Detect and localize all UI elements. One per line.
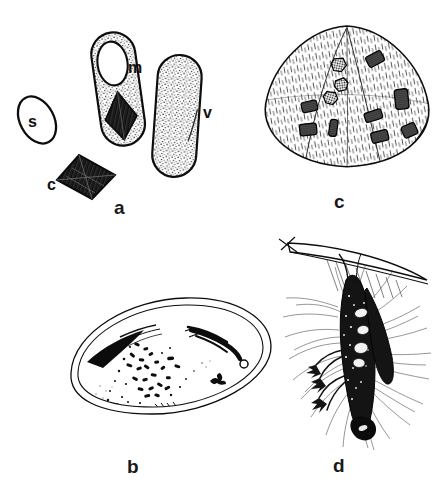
panel-label-a: a [114,198,125,217]
label-sporulating-cell-m: m [128,60,142,76]
panel-label-b: b [127,457,139,476]
panel-label-c: c [334,192,345,211]
panel-b [60,288,275,423]
label-vegetative-rod-v: v [203,105,212,121]
panel-b-drawing [60,288,275,423]
panel-c-drawing [256,8,438,186]
figure-canvas: s m c v a [0,0,446,491]
label-spore-s: s [28,114,37,130]
structure-crystal-c [57,155,115,199]
inclusion [394,88,409,109]
panel-c [256,8,438,186]
inclusion [299,123,317,136]
panel-label-d: d [333,456,345,475]
cell-body [256,21,438,174]
structure-vegetative-rod-v [151,54,203,179]
panel-d [268,232,444,457]
insect-cadaver [306,254,393,440]
label-crystal-c: c [47,177,56,193]
inclusion [328,119,338,137]
panel-a-drawing [0,0,250,225]
panel-a: s m c v [0,0,250,225]
panel-d-drawing [268,232,444,457]
structure-sporulating-cell-m [88,29,147,148]
structure-spore-s [10,90,63,150]
